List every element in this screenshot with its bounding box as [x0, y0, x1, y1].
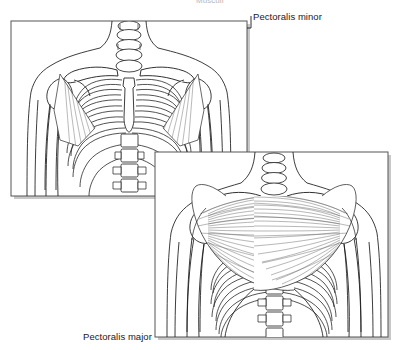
label-pectoralis-minor: Pectoralis minor — [253, 11, 322, 22]
anatomy-figure — [0, 0, 401, 350]
label-pectoralis-major: Pectoralis major — [83, 331, 152, 342]
pectoralis-major-panel — [155, 152, 391, 340]
cropped-header-text: Musculi — [196, 0, 223, 5]
